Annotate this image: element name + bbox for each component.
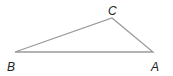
vertex-label-b: B xyxy=(7,60,15,74)
vertex-label-a: A xyxy=(150,60,159,74)
triangle-diagram: C B A xyxy=(0,0,173,76)
triangle-abc xyxy=(15,18,153,52)
vertex-label-c: C xyxy=(108,4,117,18)
